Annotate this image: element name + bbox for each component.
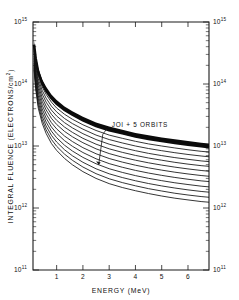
chart-figure: 1011101110121012101310131014101410151015… <box>0 0 239 300</box>
y-axis-tick-label: 1012 <box>14 203 27 211</box>
x-axis-tick-label: 5 <box>160 273 164 280</box>
chart-annotation-label: JOI + 5 ORBITS <box>112 121 168 128</box>
y-axis-tick-label: 1015 <box>14 17 27 25</box>
fluence-vs-energy-chart: 1011101110121012101310131014101410151015… <box>0 0 239 300</box>
x-axis-tick-label: 2 <box>81 273 85 280</box>
y-axis-tick-label: 1014 <box>14 79 27 87</box>
x-axis-tick-label: 6 <box>186 273 190 280</box>
x-axis-tick-label: 4 <box>134 273 138 280</box>
y-axis-tick-label: 1013 <box>14 141 27 149</box>
y-axis-tick-label-right: 1011 <box>213 265 226 273</box>
y-axis-tick-label-right: 1014 <box>213 79 226 87</box>
x-axis-tick-label: 1 <box>55 273 59 280</box>
y-axis-tick-label-right: 1015 <box>213 17 226 25</box>
y-axis-title: INTEGRAL FLUENCE (ELECTRONS/cm2) <box>6 69 15 223</box>
plot-frame <box>33 22 209 270</box>
y-axis-tick-label-right: 1013 <box>213 141 226 149</box>
x-axis-title: ENERGY (MeV) <box>92 287 151 295</box>
y-axis-tick-label-right: 1012 <box>213 203 226 211</box>
y-axis-tick-label: 1011 <box>14 265 27 273</box>
x-axis-tick-label: 3 <box>107 273 111 280</box>
fluence-dense-band <box>34 41 209 147</box>
